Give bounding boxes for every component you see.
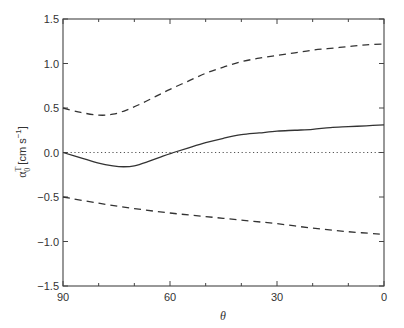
series-layer (63, 44, 384, 234)
series-upper-bound (63, 44, 384, 115)
x-tick-label: 60 (164, 291, 176, 303)
y-axis-title-units-close: ] (16, 126, 28, 129)
y-axis-title-sub: 0 (23, 168, 32, 172)
series-mean (63, 125, 384, 167)
y-axis-title: αT0[cm s−1] (14, 126, 32, 178)
series-lower-bound (63, 197, 384, 234)
y-tick-label: 0.0 (44, 147, 59, 159)
y-tick-label: −1.0 (37, 236, 59, 248)
x-tick-label: 30 (271, 291, 283, 303)
x-tick-label: 0 (381, 291, 387, 303)
y-axis: 1.51.00.50.0−0.5−1.0−1.5 (37, 13, 384, 292)
svg-text:αT0[cm s−1]: αT0[cm s−1] (14, 126, 32, 178)
x-axis: 9060300 (57, 19, 387, 303)
y-tick-label: 0.5 (44, 102, 59, 114)
y-tick-label: 1.5 (44, 13, 59, 25)
y-tick-label: −1.5 (37, 280, 59, 292)
y-axis-title-sup: T (14, 167, 23, 172)
x-tick-label: 90 (57, 291, 69, 303)
y-axis-title-units: [cm s (16, 138, 28, 165)
x-axis-title: θ (220, 309, 226, 323)
y-tick-label: −0.5 (37, 191, 59, 203)
chart: 9060300 1.51.00.50.0−0.5−1.0−1.5 θ αT0[c… (0, 0, 404, 328)
y-tick-label: 1.0 (44, 58, 59, 70)
